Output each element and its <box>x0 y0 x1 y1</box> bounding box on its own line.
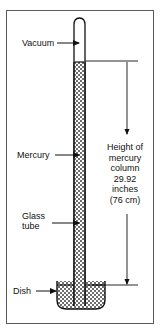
callout-line-2: mercury <box>97 153 153 164</box>
callout-line-6: (76 cm) <box>97 195 153 206</box>
callout-line-3: column <box>97 163 153 174</box>
label-vacuum: Vacuum <box>22 38 54 48</box>
callout-line-4: 29.92 <box>97 174 153 185</box>
height-callout: Height of mercury column 29.92 inches (7… <box>97 142 153 205</box>
mercury-column <box>74 62 85 306</box>
label-dish: Dish <box>13 286 31 296</box>
label-glass-tube-line2: tube <box>22 221 40 231</box>
label-mercury: Mercury <box>17 150 50 160</box>
callout-line-5: inches <box>97 184 153 195</box>
callout-line-1: Height of <box>97 142 153 153</box>
label-glass-tube-line1: Glass <box>22 211 45 221</box>
barometer-figure: Vacuum Mercury Glass tube Dish Height of… <box>0 0 161 336</box>
leader-arrows <box>36 43 79 291</box>
